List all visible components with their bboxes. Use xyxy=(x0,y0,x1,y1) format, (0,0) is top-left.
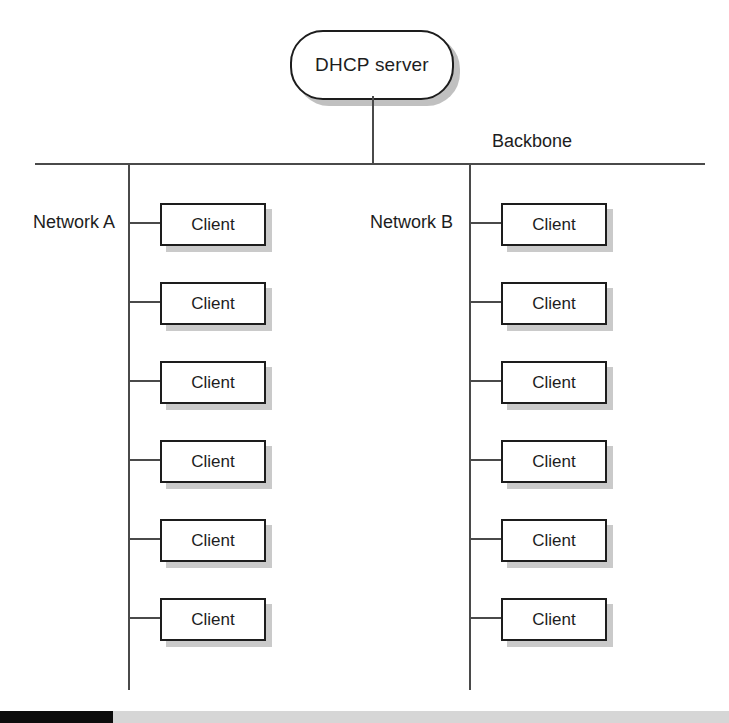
client-node: Client xyxy=(501,361,607,404)
client-node: Client xyxy=(160,440,266,483)
client-label: Client xyxy=(532,452,575,472)
client-stub-line xyxy=(469,222,501,224)
client-node: Client xyxy=(160,282,266,325)
backbone-line xyxy=(35,163,705,165)
client-label: Client xyxy=(532,373,575,393)
client-stub-line xyxy=(469,538,501,540)
client-label: Client xyxy=(191,373,234,393)
client-label: Client xyxy=(532,294,575,314)
client-node: Client xyxy=(501,519,607,562)
client-stub-line xyxy=(469,380,501,382)
network-label-network-b: Network B xyxy=(370,212,453,233)
network-label-network-a: Network A xyxy=(33,212,115,233)
client-label: Client xyxy=(191,215,234,235)
trunk-line-network-b xyxy=(469,163,471,690)
client-stub-line xyxy=(128,538,160,540)
client-stub-line xyxy=(469,459,501,461)
client-stub-line xyxy=(469,617,501,619)
backbone-label: Backbone xyxy=(492,131,572,152)
client-label: Client xyxy=(191,294,234,314)
footer-light-segment xyxy=(113,711,729,723)
client-node: Client xyxy=(160,598,266,641)
client-label: Client xyxy=(532,531,575,551)
client-node: Client xyxy=(160,361,266,404)
trunk-line-network-a xyxy=(128,163,130,690)
client-stub-line xyxy=(128,301,160,303)
client-node: Client xyxy=(501,282,607,325)
dhcp-server-node: DHCP server xyxy=(290,30,454,100)
client-label: Client xyxy=(532,215,575,235)
server-backbone-uplink xyxy=(372,96,374,163)
client-label: Client xyxy=(532,610,575,630)
client-stub-line xyxy=(128,617,160,619)
client-stub-line xyxy=(128,380,160,382)
client-label: Client xyxy=(191,531,234,551)
client-node: Client xyxy=(160,203,266,246)
client-stub-line xyxy=(128,222,160,224)
client-label: Client xyxy=(191,452,234,472)
footer-band xyxy=(0,711,729,723)
footer-dark-segment xyxy=(0,711,113,723)
client-label: Client xyxy=(191,610,234,630)
client-node: Client xyxy=(501,598,607,641)
client-node: Client xyxy=(501,440,607,483)
client-node: Client xyxy=(160,519,266,562)
client-node: Client xyxy=(501,203,607,246)
network-diagram-canvas: DHCP server Backbone Network AClientClie… xyxy=(0,0,729,723)
client-stub-line xyxy=(128,459,160,461)
client-stub-line xyxy=(469,301,501,303)
dhcp-server-label: DHCP server xyxy=(315,54,429,76)
